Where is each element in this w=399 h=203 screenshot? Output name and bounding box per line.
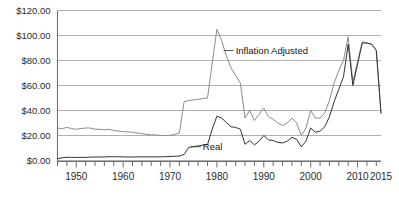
- x-tick-label: 1990: [253, 171, 276, 182]
- y-tick-label: $120.00: [16, 5, 50, 16]
- x-tick-label: 1970: [159, 171, 182, 182]
- y-tick-label: $80.00: [21, 55, 50, 66]
- y-axis-tick-labels: $0.00$20.00$40.00$60.00$80.00$100.00$120…: [16, 5, 50, 166]
- x-tick-label: 1960: [112, 171, 135, 182]
- annotation-labels: Inflation AdjustedReal: [203, 45, 308, 152]
- y-tick-label: $60.00: [21, 80, 50, 91]
- gridlines-group: [58, 11, 382, 161]
- annotation-label-inflation-adjusted: Inflation Adjusted: [236, 45, 308, 56]
- annotation-label-real: Real: [203, 141, 223, 152]
- y-tick-label: $0.00: [27, 155, 51, 166]
- x-axis-tick-marks: [58, 162, 377, 168]
- x-tick-label: 1980: [206, 171, 229, 182]
- oil-price-line-chart: $0.00$20.00$40.00$60.00$80.00$100.00$120…: [0, 0, 399, 203]
- chart-container: $0.00$20.00$40.00$60.00$80.00$100.00$120…: [0, 0, 399, 203]
- x-tick-label: 1950: [65, 171, 88, 182]
- x-tick-label: 2000: [300, 171, 323, 182]
- y-tick-label: $20.00: [21, 130, 50, 141]
- series-path-inflation-adjusted: [58, 29, 382, 135]
- y-tick-label: $40.00: [21, 105, 50, 116]
- x-tick-label: 2015: [370, 171, 393, 182]
- x-tick-label: 2010: [346, 171, 369, 182]
- x-axis-tick-labels: 19501960197019801990200020102015: [65, 171, 392, 182]
- y-tick-label: $100.00: [16, 30, 50, 41]
- series-inflation-adjusted-line: [58, 29, 382, 135]
